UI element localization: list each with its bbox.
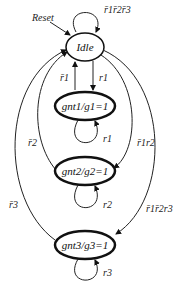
gnt1-self-loop-label: r1 bbox=[103, 133, 112, 144]
gnt2-self-loop bbox=[75, 185, 98, 208]
gnt2-self-loop-label: r2 bbox=[103, 199, 112, 210]
transition-idle-gnt3-label: r̄1r̄2r3 bbox=[146, 203, 173, 214]
reset-label: Reset bbox=[31, 12, 54, 23]
svg-text:gnt2/g2=1: gnt2/g2=1 bbox=[62, 165, 109, 177]
svg-text:gnt1/g1=1: gnt1/g1=1 bbox=[62, 100, 109, 112]
gnt3-self-loop bbox=[75, 259, 98, 280]
svg-text:Idle: Idle bbox=[75, 41, 93, 53]
transition-idle-gnt2-label: r̄1r2 bbox=[137, 137, 155, 148]
svg-text:gnt3/g3=1: gnt3/g3=1 bbox=[62, 239, 109, 251]
state-gnt2: gnt2/g2=1 bbox=[55, 157, 115, 185]
gnt3-self-loop-label: r3 bbox=[103, 267, 112, 278]
idle-self-loop bbox=[73, 13, 98, 33]
transition-gnt1-idle-label: r̄1 bbox=[60, 72, 69, 83]
state-gnt3: gnt3/g3=1 bbox=[55, 231, 115, 259]
state-gnt1: gnt1/g1=1 bbox=[55, 92, 115, 120]
transition-gnt2-idle-label: r̄2 bbox=[28, 137, 37, 148]
state-idle: Idle bbox=[66, 33, 104, 61]
gnt1-self-loop bbox=[75, 120, 98, 143]
state-diagram: r̄1r̄2r̄3 Reset Idle r1 r̄1 gnt1/g1=1 r1… bbox=[0, 0, 176, 287]
transition-gnt3-idle bbox=[15, 50, 66, 240]
reset-arrow bbox=[50, 22, 70, 35]
idle-self-loop-label: r̄1r̄2r̄3 bbox=[104, 4, 131, 15]
transition-gnt3-idle-label: r̄3 bbox=[9, 199, 18, 210]
transition-idle-gnt1-label: r1 bbox=[99, 72, 108, 83]
